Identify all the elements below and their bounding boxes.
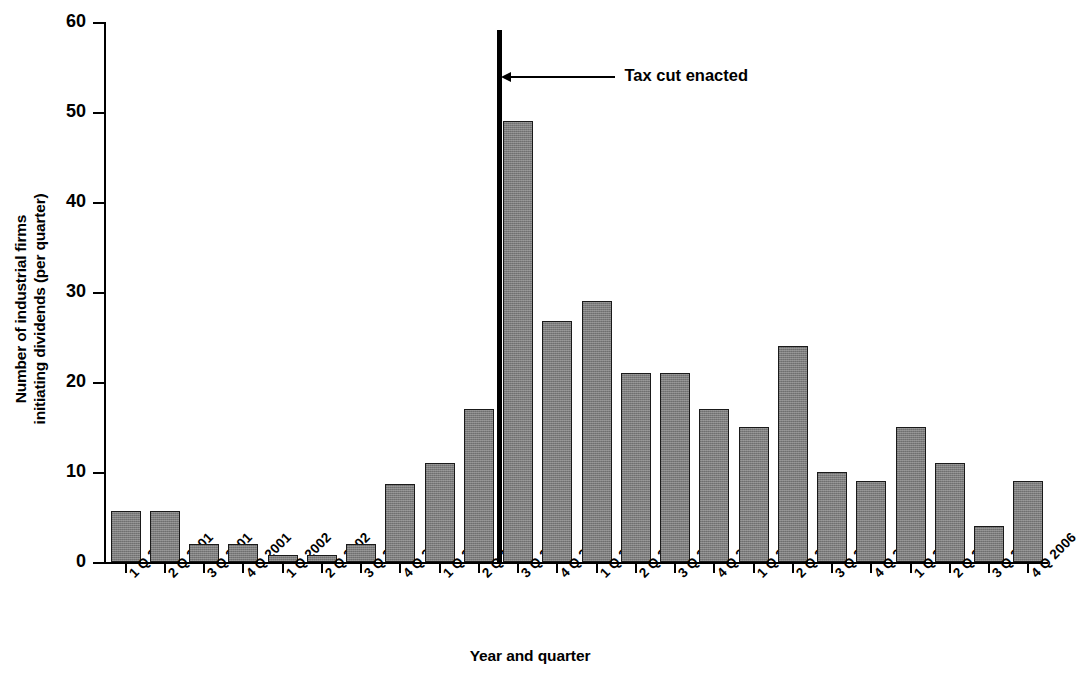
bar[interactable] xyxy=(150,511,180,562)
y-axis-title-line2: initiating dividends (per quarter) xyxy=(30,74,49,544)
bar-slot[interactable]: 4 Q 2001 xyxy=(224,22,263,562)
bar[interactable] xyxy=(699,409,729,562)
bar[interactable] xyxy=(464,409,494,562)
y-axis-tick-label: 60 xyxy=(66,11,86,32)
x-axis-tick xyxy=(125,562,127,573)
y-axis-tick: 40 xyxy=(93,202,105,204)
x-axis-tick xyxy=(753,562,755,573)
bar-slot[interactable]: 1 Q 2005 xyxy=(734,22,773,562)
bar-slot[interactable]: 3 Q 2003 xyxy=(499,22,538,562)
y-axis-tick-label: 50 xyxy=(66,101,86,122)
bar-slot[interactable]: 1 Q 2003 xyxy=(420,22,459,562)
bar[interactable] xyxy=(935,463,965,562)
tax-cut-label: Tax cut enacted xyxy=(625,66,748,85)
x-axis-tick xyxy=(282,562,284,573)
bar[interactable] xyxy=(542,321,572,562)
bar[interactable] xyxy=(111,511,141,562)
y-axis-tick-label: 0 xyxy=(76,551,86,572)
bar[interactable] xyxy=(739,427,769,562)
bar-slot[interactable]: 1 Q 2001 xyxy=(106,22,145,562)
bar[interactable] xyxy=(896,427,926,562)
y-axis-tick: 50 xyxy=(93,112,105,114)
bar[interactable] xyxy=(856,481,886,562)
bar-slot[interactable]: 2 Q 2004 xyxy=(616,22,655,562)
bar-slot[interactable]: 4 Q 2005 xyxy=(852,22,891,562)
y-axis-tick-label: 20 xyxy=(66,371,86,392)
y-axis-tick-label: 30 xyxy=(66,281,86,302)
bar-slot[interactable]: 4 Q 2004 xyxy=(695,22,734,562)
y-axis-tick: 60 xyxy=(93,22,105,24)
bar-slot[interactable]: 4 Q 2002 xyxy=(381,22,420,562)
bar[interactable] xyxy=(778,346,808,562)
bar-slot[interactable]: 2 Q 2002 xyxy=(302,22,341,562)
bar-slot[interactable]: 3 Q 2001 xyxy=(185,22,224,562)
bar-slot[interactable]: 4 Q 2006 xyxy=(1009,22,1048,562)
y-axis-title: Number of industrial firms initiating di… xyxy=(11,74,49,544)
y-axis-title-line1: Number of industrial firms xyxy=(12,215,29,404)
bar[interactable] xyxy=(817,472,847,562)
y-axis-tick: 30 xyxy=(93,292,105,294)
bars-group: 1 Q 20012 Q 20013 Q 20014 Q 20011 Q 2002… xyxy=(106,22,1048,562)
bar-slot[interactable]: 3 Q 2002 xyxy=(342,22,381,562)
y-axis-tick: 0 xyxy=(93,562,105,564)
bar[interactable] xyxy=(1013,481,1043,562)
x-axis-tick xyxy=(596,562,598,573)
bar[interactable] xyxy=(385,484,415,562)
bar-slot[interactable]: 2 Q 2003 xyxy=(459,22,498,562)
bar[interactable] xyxy=(425,463,455,562)
bar[interactable] xyxy=(503,121,533,562)
bar-slot[interactable]: 4 Q 2003 xyxy=(538,22,577,562)
bar[interactable] xyxy=(974,526,1004,562)
y-axis-tick-label: 10 xyxy=(66,461,86,482)
bar-slot[interactable]: 1 Q 2002 xyxy=(263,22,302,562)
tax-cut-arrow xyxy=(501,70,621,84)
x-axis-tick xyxy=(910,562,912,573)
y-axis-tick-label: 40 xyxy=(66,191,86,212)
bar-slot[interactable]: 1 Q 2004 xyxy=(577,22,616,562)
bar[interactable] xyxy=(621,373,651,562)
bar-slot[interactable]: 2 Q 2006 xyxy=(930,22,969,562)
bar-slot[interactable]: 1 Q 2006 xyxy=(891,22,930,562)
y-axis-tick: 10 xyxy=(93,472,105,474)
plot-area: 0102030405060 1 Q 20012 Q 20013 Q 20014 … xyxy=(104,22,1048,562)
bar[interactable] xyxy=(660,373,690,562)
bar-slot[interactable]: 3 Q 2006 xyxy=(970,22,1009,562)
bar-slot[interactable]: 3 Q 2004 xyxy=(656,22,695,562)
tax-cut-line xyxy=(497,30,502,562)
bar-slot[interactable]: 2 Q 2005 xyxy=(773,22,812,562)
y-axis-tick: 20 xyxy=(93,382,105,384)
bar[interactable] xyxy=(582,301,612,562)
bar-slot[interactable]: 3 Q 2005 xyxy=(813,22,852,562)
x-axis-tick xyxy=(439,562,441,573)
x-axis-title: Year and quarter xyxy=(0,647,1060,665)
arrow-shaft xyxy=(510,76,615,78)
bar-slot[interactable]: 2 Q 2001 xyxy=(145,22,184,562)
